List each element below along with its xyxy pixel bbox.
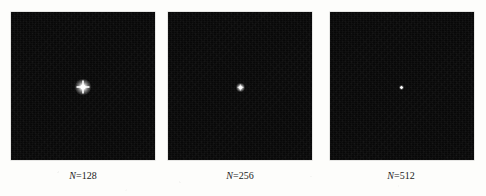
psf-core: [239, 86, 242, 89]
psf-core: [400, 86, 402, 88]
psf-diffraction-spike-vertical: [82, 81, 84, 94]
psf-diffraction-spike-horizontal: [77, 86, 90, 88]
caption-value: 512: [400, 170, 415, 181]
panel-caption-n256: N=256: [180, 170, 300, 182]
psf-core: [81, 85, 86, 90]
caption-symbol: N: [69, 170, 76, 181]
caption-symbol: N: [387, 170, 394, 181]
psf-bright-spot-n512: [399, 85, 404, 90]
caption-value: 128: [82, 170, 97, 181]
caption-symbol: N: [226, 170, 233, 181]
psf-diffraction-spike-vertical: [401, 86, 402, 89]
psf-halo: [399, 85, 404, 90]
figure-root: N=128 N=256 N=512: [0, 0, 486, 196]
panel-caption-n128: N=128: [23, 170, 143, 182]
panel-caption-n512: N=512: [341, 170, 461, 182]
image-panel-n256: [168, 12, 312, 160]
psf-halo: [236, 83, 245, 92]
psf-bright-spot-n256: [236, 83, 245, 92]
psf-diffraction-spike-horizontal: [400, 87, 403, 88]
psf-diffraction-spike-horizontal: [237, 86, 243, 87]
image-panel-n128: [11, 12, 155, 160]
psf-halo: [75, 79, 91, 95]
psf-diffraction-spike-vertical: [239, 84, 240, 90]
psf-bright-spot-n128: [75, 79, 91, 95]
caption-value: 256: [239, 170, 254, 181]
image-panel-n512: [330, 12, 474, 160]
